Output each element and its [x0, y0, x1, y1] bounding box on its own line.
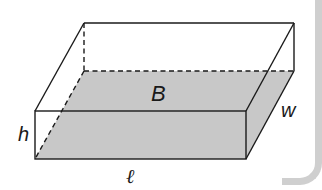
width-label: w [281, 100, 295, 120]
base-label: B [151, 83, 166, 105]
figure-frame: B w h ℓ [0, 0, 322, 190]
length-label: ℓ [126, 166, 134, 186]
height-label: h [18, 124, 29, 144]
